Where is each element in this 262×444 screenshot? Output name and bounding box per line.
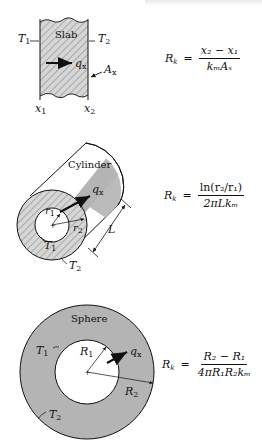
formula-fraction: ln(r₂/r₁) 2πLkₘ [198,181,244,210]
sphere-r2-label: R2 [125,386,138,399]
slab-area-label: Ax [104,64,116,77]
cylinder-t1-label: T1 [44,240,56,253]
cylinder-r1-label: r1 [45,206,55,218]
formula-denominator: 2πLkₘ [201,196,240,210]
sphere-t1-label: T1 [36,345,48,358]
slab-x1-label: x1 [35,103,46,116]
cylinder-t2-label: T2 [69,260,81,273]
sphere-title: Sphere [71,314,107,324]
sphere-diagram: + [20,305,154,439]
sphere-r1-label: R1 [80,346,93,359]
formula-numerator: R₂ − R₁ [201,350,247,365]
slab-title: Slab [55,30,77,40]
slab-t1-label: T1 [18,33,30,46]
formula-numerator: x₂ − x₁ [199,44,240,59]
svg-text:+: + [50,222,56,230]
slab-x2-label: x2 [84,103,95,116]
slab-resistance-formula: Rk = x₂ − x₁ kₘAₓ [165,44,240,73]
formula-fraction: R₂ − R₁ 4πR₁R₂kₘ [196,350,253,379]
formula-lhs: Rk [162,358,175,372]
cylinder-title: Cylinder [68,160,111,170]
formula-numerator: ln(r₂/r₁) [198,181,244,196]
slab-q-label: qx [75,58,87,71]
cylinder-length-label: L [108,224,115,235]
slab-t2-label: T2 [98,33,110,46]
cylinder-r2-label: r2 [73,223,83,235]
formula-lhs: Rk [165,52,178,66]
svg-text:+: + [85,369,91,377]
cylinder-q-label: qx [92,184,104,197]
formula-denominator: kₘAₓ [205,59,234,73]
sphere-t2-label: T2 [49,409,61,422]
sphere-resistance-formula: Rk = R₂ − R₁ 4πR₁R₂kₘ [162,350,253,379]
formula-denominator: 4πR₁R₂kₘ [196,365,253,379]
formula-fraction: x₂ − x₁ kₘAₓ [199,44,240,73]
formula-lhs: Rk [164,189,177,203]
cylinder-resistance-formula: Rk = ln(r₂/r₁) 2πLkₘ [164,181,244,210]
sphere-q-label: qx [130,346,142,359]
